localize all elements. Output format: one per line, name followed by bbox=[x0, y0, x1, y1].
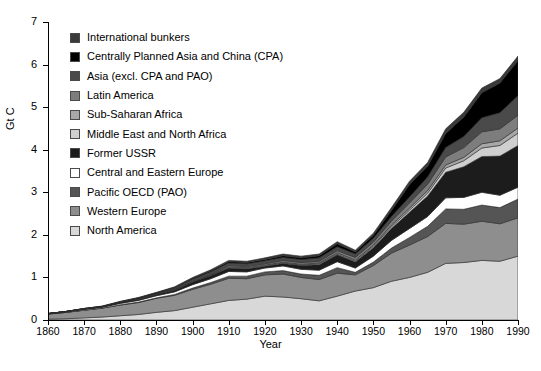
y-axis-tick-mark bbox=[43, 65, 48, 66]
x-axis-tick-label: 1900 bbox=[173, 326, 213, 337]
y-axis-tick-label: 3 bbox=[15, 186, 37, 197]
legend-item[interactable]: Pacific OECD (PAO) bbox=[70, 182, 283, 201]
legend-item[interactable]: Western Europe bbox=[70, 202, 283, 221]
x-axis-tick-label: 1870 bbox=[64, 326, 104, 337]
x-axis-tick-label: 1990 bbox=[498, 326, 538, 337]
x-axis-tick-label: 1950 bbox=[353, 326, 393, 337]
x-axis-tick-label: 1920 bbox=[245, 326, 285, 337]
legend-item[interactable]: Former USSR bbox=[70, 144, 283, 163]
legend-swatch-icon bbox=[70, 33, 80, 43]
x-axis-tick-label: 1930 bbox=[281, 326, 321, 337]
y-axis-tick-label: 2 bbox=[15, 229, 37, 240]
legend-item[interactable]: Sub-Saharan Africa bbox=[70, 105, 283, 124]
legend-item-label: Pacific OECD (PAO) bbox=[87, 187, 187, 198]
legend-item-label: Former USSR bbox=[87, 148, 156, 159]
legend-item[interactable]: Middle East and North Africa bbox=[70, 124, 283, 143]
legend-swatch-icon bbox=[70, 91, 80, 101]
legend-swatch-icon bbox=[70, 226, 80, 236]
y-axis-tick-mark bbox=[43, 277, 48, 278]
x-axis-tick-label: 1940 bbox=[317, 326, 357, 337]
legend-item-label: International bunkers bbox=[87, 32, 190, 43]
x-axis-tick-label: 1880 bbox=[100, 326, 140, 337]
legend-swatch-icon bbox=[70, 187, 80, 197]
x-axis-label: Year bbox=[0, 338, 541, 350]
legend-item-label: Sub-Saharan Africa bbox=[87, 109, 182, 120]
legend-swatch-icon bbox=[70, 148, 80, 158]
legend-item-label: Asia (excl. CPA and PAO) bbox=[87, 71, 213, 82]
legend-swatch-icon bbox=[70, 168, 80, 178]
legend-item-label: Central and Eastern Europe bbox=[87, 167, 223, 178]
y-axis-tick-mark bbox=[43, 107, 48, 108]
legend-item[interactable]: Centrally Planned Asia and China (CPA) bbox=[70, 47, 283, 66]
y-axis-tick-label: 6 bbox=[15, 59, 37, 70]
x-axis-tick-label: 1970 bbox=[426, 326, 466, 337]
legend-item[interactable]: International bunkers bbox=[70, 28, 283, 47]
legend-swatch-icon bbox=[70, 71, 80, 81]
x-axis-tick-label: 1980 bbox=[462, 326, 502, 337]
y-axis-tick-mark bbox=[43, 150, 48, 151]
x-axis-tick-label: 1890 bbox=[136, 326, 176, 337]
y-axis-tick-mark bbox=[43, 235, 48, 236]
legend-item[interactable]: Central and Eastern Europe bbox=[70, 163, 283, 182]
legend-swatch-icon bbox=[70, 110, 80, 120]
x-axis-line bbox=[48, 320, 518, 321]
legend-swatch-icon bbox=[70, 52, 80, 62]
y-axis-line bbox=[48, 22, 49, 320]
x-axis-tick-label: 1860 bbox=[28, 326, 68, 337]
legend-swatch-icon bbox=[70, 206, 80, 216]
legend-item-label: Latin America bbox=[87, 90, 154, 101]
y-axis-label: Gt C bbox=[4, 107, 16, 130]
legend-item-label: Middle East and North Africa bbox=[87, 129, 226, 140]
y-axis-tick-label: 0 bbox=[15, 314, 37, 325]
legend-swatch-icon bbox=[70, 129, 80, 139]
y-axis-tick-label: 1 bbox=[15, 271, 37, 282]
y-axis-tick-label: 5 bbox=[15, 101, 37, 112]
chart-legend: International bunkersCentrally Planned A… bbox=[70, 28, 283, 240]
y-axis-tick-label: 7 bbox=[15, 16, 37, 27]
x-axis-tick-label: 1910 bbox=[209, 326, 249, 337]
legend-item-label: Western Europe bbox=[87, 206, 166, 217]
figure-root: 01234567 1860187018801890190019101920193… bbox=[0, 0, 541, 371]
y-axis-tick-label: 4 bbox=[15, 144, 37, 155]
legend-item[interactable]: Asia (excl. CPA and PAO) bbox=[70, 67, 283, 86]
legend-item[interactable]: North America bbox=[70, 221, 283, 240]
x-axis-tick-label: 1960 bbox=[390, 326, 430, 337]
y-axis-tick-mark bbox=[43, 192, 48, 193]
legend-item-label: North America bbox=[87, 225, 157, 236]
legend-item-label: Centrally Planned Asia and China (CPA) bbox=[87, 51, 283, 62]
y-axis-tick-mark bbox=[43, 22, 48, 23]
legend-item[interactable]: Latin America bbox=[70, 86, 283, 105]
